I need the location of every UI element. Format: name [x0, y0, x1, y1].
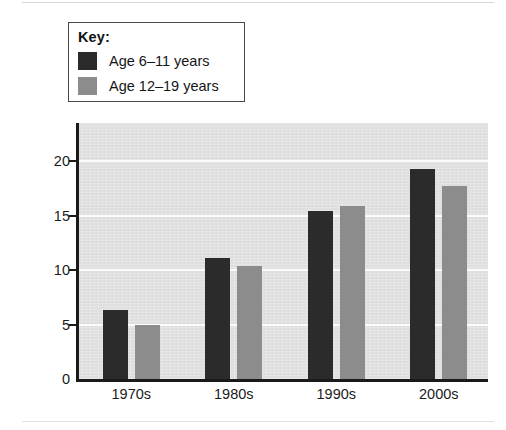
legend-swatch-age-12-19: [78, 77, 97, 95]
x-axis-line: [76, 379, 488, 382]
y-tick-label-0: 0: [40, 371, 70, 387]
page-bottom-rule: [22, 421, 494, 422]
y-tick-10: [69, 269, 78, 271]
legend-title: Key:: [78, 28, 244, 46]
legend-item-age-12-19: Age 12–19 years: [78, 73, 244, 98]
y-tick-label-5: 5: [40, 317, 70, 333]
bar-chart: [78, 123, 488, 379]
x-tick-label-1980s: 1980s: [214, 386, 254, 402]
bar-2000s-series-2: [442, 186, 467, 379]
legend-swatch-age-6-11: [78, 52, 97, 70]
bar-2000s-series-1: [410, 169, 435, 379]
y-tick-label-10: 10: [40, 262, 70, 278]
bar-1970s-series-2: [135, 325, 160, 379]
chart-legend: Key: Age 6–11 years Age 12–19 years: [68, 22, 245, 102]
x-tick-label-1970s: 1970s: [112, 386, 152, 402]
y-tick-5: [69, 324, 78, 326]
bar-1970s-series-1: [103, 310, 128, 379]
bar-1980s-series-2: [237, 266, 262, 379]
y-tick-15: [69, 215, 78, 217]
bar-1990s-series-2: [340, 206, 365, 379]
y-tick-label-15: 15: [40, 208, 70, 224]
y-tick-label-20: 20: [40, 153, 70, 169]
bar-1980s-series-1: [205, 258, 230, 379]
legend-label-age-6-11: Age 6–11 years: [109, 52, 210, 70]
y-axis-tick-labels: 05101520: [38, 123, 70, 379]
x-tick-label-1990s: 1990s: [317, 386, 357, 402]
legend-item-age-6-11: Age 6–11 years: [78, 48, 244, 73]
legend-label-age-12-19: Age 12–19 years: [109, 77, 219, 95]
gridline-20: [78, 160, 488, 162]
y-tick-20: [69, 160, 78, 162]
x-tick-label-2000s: 2000s: [419, 386, 459, 402]
bar-1990s-series-1: [308, 211, 333, 379]
page-top-rule: [22, 2, 494, 3]
